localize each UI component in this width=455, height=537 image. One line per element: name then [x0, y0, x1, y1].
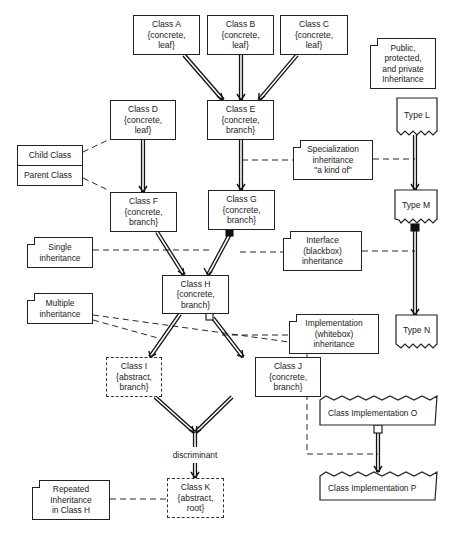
- type-n[interactable]: Type N: [396, 315, 437, 344]
- note-line: Inheritance: [382, 74, 423, 85]
- note-line: inheritance: [40, 309, 81, 320]
- class-c[interactable]: Class C {concrete, leaf}: [280, 15, 348, 55]
- note-line: Public,: [390, 43, 415, 54]
- type-m[interactable]: Type M: [395, 190, 437, 219]
- multiple-inheritance-note: Multiple inheritance: [27, 293, 93, 324]
- class-b-kind: leaf}: [232, 40, 249, 51]
- note-line: and private: [382, 64, 423, 75]
- class-d-props: {concrete,: [124, 115, 162, 126]
- class-g-kind: branch}: [227, 215, 256, 226]
- class-j-name: Class J: [274, 361, 302, 372]
- note-line: (whitebox): [315, 329, 354, 340]
- legend-note: Child Class Parent Class: [17, 145, 83, 186]
- class-a-props: {concrete,: [147, 30, 185, 41]
- note-line: Multiple: [46, 298, 75, 309]
- note-line: inheritance: [313, 155, 354, 166]
- class-i-name: Class I: [121, 361, 147, 372]
- note-line: in Class H: [52, 505, 90, 516]
- class-k-kind: root}: [187, 503, 205, 514]
- class-d-kind: leaf}: [135, 125, 152, 136]
- class-c-props: {concrete,: [295, 30, 333, 41]
- note-line: Implementation: [305, 318, 362, 329]
- class-b[interactable]: Class B {concrete, leaf}: [207, 15, 274, 55]
- class-j-props: {concrete,: [269, 372, 307, 383]
- class-d-name: Class D: [128, 104, 158, 115]
- implementation-marker-h: [206, 313, 213, 320]
- class-a[interactable]: Class A {concrete, leaf}: [133, 15, 200, 55]
- class-a-kind: leaf}: [158, 40, 175, 51]
- legend-parent-class: Parent Class: [18, 166, 82, 186]
- single-inheritance-note: Single inheritance: [27, 237, 93, 268]
- class-h-kind: branch}: [181, 300, 210, 311]
- class-d[interactable]: Class D {concrete, leaf}: [110, 100, 176, 140]
- class-b-name: Class B: [226, 19, 256, 30]
- note-line: Repeated: [53, 484, 89, 495]
- note-line: inheritance: [314, 339, 355, 350]
- note-line: Single: [48, 242, 71, 253]
- note-line: (blackbox): [303, 246, 342, 257]
- class-implementation-p[interactable]: Class Implementation P: [320, 476, 435, 500]
- note-line: protected,: [384, 53, 421, 64]
- class-f-kind: branch}: [129, 217, 158, 228]
- implementation-marker-o: [374, 425, 382, 433]
- class-implementation-o[interactable]: Class Implementation O: [320, 400, 435, 425]
- type-l[interactable]: Type L: [397, 98, 437, 131]
- class-c-kind: leaf}: [306, 40, 323, 51]
- interface-note: Interface (blackbox) inheritance: [283, 231, 362, 271]
- class-c-name: Class C: [299, 19, 329, 30]
- class-e-name: Class E: [226, 104, 256, 115]
- class-i-kind: branch}: [119, 382, 148, 393]
- class-e[interactable]: Class E {concrete, branch}: [207, 100, 274, 140]
- implementation-note: Implementation (whitebox) inheritance: [289, 314, 379, 354]
- interface-marker-m: [411, 224, 419, 231]
- class-j-kind: branch}: [273, 382, 302, 393]
- class-h-props: {concrete,: [176, 289, 214, 300]
- class-f-props: {concrete,: [124, 207, 162, 218]
- note-line: inheritance: [302, 256, 343, 267]
- note-line: inheritance: [40, 253, 81, 264]
- class-h[interactable]: Class H {concrete, branch}: [162, 275, 229, 314]
- class-k[interactable]: Class K {abstract, root}: [167, 478, 224, 518]
- class-h-name: Class H: [180, 279, 210, 290]
- class-j[interactable]: Class J {concrete, branch}: [255, 357, 321, 397]
- class-g-name: Class G: [226, 194, 257, 205]
- class-g[interactable]: Class G {concrete, branch}: [208, 190, 275, 230]
- class-e-props: {concrete,: [221, 115, 259, 126]
- note-line: Inheritance: [50, 495, 91, 506]
- class-f-name: Class F: [129, 196, 158, 207]
- interface-marker-g: [226, 230, 233, 236]
- visibility-note: Public, protected, and private Inheritan…: [370, 38, 436, 89]
- note-line: Interface: [306, 235, 339, 246]
- class-b-props: {concrete,: [221, 30, 259, 41]
- discriminant-label: discriminant: [160, 450, 230, 460]
- class-i[interactable]: Class I {abstract, branch}: [106, 357, 162, 397]
- class-i-props: {abstract,: [116, 372, 152, 383]
- class-e-kind: branch}: [226, 125, 255, 136]
- class-k-props: {abstract,: [178, 493, 214, 504]
- class-f[interactable]: Class F {concrete, branch}: [110, 192, 177, 232]
- note-line: "a kind of": [314, 165, 352, 176]
- class-k-name: Class K: [181, 482, 211, 493]
- class-a-name: Class A: [152, 19, 181, 30]
- note-line: Specialization: [307, 144, 359, 155]
- specialization-note: Specialization inheritance "a kind of": [293, 140, 373, 180]
- class-g-props: {concrete,: [222, 205, 260, 216]
- repeated-inheritance-note: Repeated Inheritance in Class H: [32, 480, 110, 520]
- legend-child-class: Child Class: [18, 146, 82, 166]
